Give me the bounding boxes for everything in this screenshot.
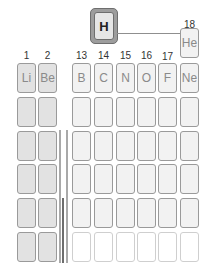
- inner-transition-bar: [62, 198, 64, 263]
- s-block-cell: [17, 232, 36, 262]
- s-block-cell: [17, 164, 36, 194]
- s-block-cell: [38, 131, 57, 161]
- p-block-cell: [72, 198, 91, 228]
- helium-cell: He: [180, 28, 199, 58]
- p-block-cell: [137, 97, 156, 127]
- group-label-16: 16: [137, 51, 156, 61]
- p-block-cell-empty: [137, 232, 156, 262]
- p-block-cell: [94, 131, 113, 161]
- p-block-cell-empty: [94, 232, 113, 262]
- group-label-2: 2: [38, 51, 57, 61]
- p-block-cell: [72, 164, 91, 194]
- p-block-cell: [116, 198, 135, 228]
- transition-metals-bar: [59, 130, 61, 263]
- periodic-table: H 18 He 1 2 13 14 15 16 17 Li Be B C N O…: [0, 0, 210, 274]
- p-block-cell: [137, 198, 156, 228]
- p-block-cell: [116, 164, 135, 194]
- p-block-cell: [94, 164, 113, 194]
- p-block-cell: [94, 97, 113, 127]
- group-label-14: 14: [94, 51, 113, 61]
- p-block-cell: [158, 198, 177, 228]
- p-block-cell: [180, 164, 199, 194]
- p-block-cell: [137, 164, 156, 194]
- s-block-cell: [17, 131, 36, 161]
- p-block-cell: [158, 97, 177, 127]
- p-block-cell: [158, 164, 177, 194]
- p-block-cell: [72, 97, 91, 127]
- p-block-cell: [116, 97, 135, 127]
- element-o: O: [137, 63, 156, 93]
- s-block-cell: [38, 198, 57, 228]
- element-b: B: [72, 63, 91, 93]
- s-block-cell: [38, 232, 57, 262]
- p-block-cell: [137, 131, 156, 161]
- s-block-cell: [38, 164, 57, 194]
- element-li: Li: [17, 63, 36, 93]
- p-block-cell-empty: [180, 232, 199, 262]
- group-label-13: 13: [72, 51, 91, 61]
- group-label-1: 1: [17, 51, 36, 61]
- p-block-cell: [116, 131, 135, 161]
- hydrogen-helium-connector: [117, 33, 180, 34]
- hydrogen-symbol: H: [94, 12, 114, 40]
- transition-metals-bar: [66, 130, 68, 263]
- p-block-cell: [180, 97, 199, 127]
- p-block-cell-empty: [116, 232, 135, 262]
- p-block-cell: [180, 131, 199, 161]
- element-f: F: [158, 63, 177, 93]
- group-label-17: 17: [158, 52, 177, 62]
- p-block-cell-empty: [158, 232, 177, 262]
- s-block-cell: [17, 198, 36, 228]
- p-block-cell: [180, 198, 199, 228]
- element-n: N: [116, 63, 135, 93]
- p-block-cell: [158, 131, 177, 161]
- hydrogen-cell: H: [90, 8, 118, 44]
- s-block-cell: [38, 97, 57, 127]
- s-block-cell: [17, 97, 36, 127]
- element-be: Be: [38, 63, 57, 93]
- group-label-15: 15: [116, 51, 135, 61]
- p-block-cell-empty: [72, 232, 91, 262]
- element-c: C: [94, 63, 113, 93]
- p-block-cell: [72, 131, 91, 161]
- p-block-cell: [94, 198, 113, 228]
- element-ne: Ne: [180, 63, 199, 93]
